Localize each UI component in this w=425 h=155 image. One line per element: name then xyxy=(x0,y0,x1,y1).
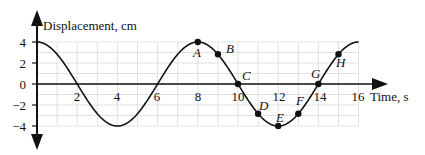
x-tick-label: 12 xyxy=(273,89,286,104)
point-label-H: H xyxy=(335,55,346,70)
x-tick-label: 16 xyxy=(352,89,366,104)
y-axis-title: Displacement, cm xyxy=(43,18,137,33)
x-tick-label: 6 xyxy=(154,89,161,104)
point-marker-F xyxy=(295,111,301,117)
y-axis xyxy=(31,10,43,150)
x-tick-label: 8 xyxy=(195,89,202,104)
x-tick-label: 4 xyxy=(114,89,121,104)
point-label-C: C xyxy=(242,68,251,83)
point-label-D: D xyxy=(258,98,269,113)
x-axis xyxy=(37,78,388,90)
x-axis-title: Time, s xyxy=(370,89,409,104)
point-label-F: F xyxy=(295,93,305,108)
displacement-time-chart: 4 2 0 −2 −4 2 4 6 8 10 12 14 16 Displace… xyxy=(0,0,425,155)
y-tick-label: 2 xyxy=(20,56,27,71)
point-label-E: E xyxy=(275,110,284,125)
x-tick-label: 14 xyxy=(314,89,328,104)
point-marker-B xyxy=(215,51,221,57)
y-tick-label: 0 xyxy=(20,77,27,92)
point-label-B: B xyxy=(226,41,234,56)
y-tick-label: −4 xyxy=(12,119,26,134)
point-label-A: A xyxy=(192,45,201,60)
point-label-G: G xyxy=(311,66,321,81)
x-tick-label: 2 xyxy=(74,89,81,104)
y-axis-up-arrow-icon xyxy=(31,10,43,26)
point-marker-C xyxy=(235,81,241,87)
point-marker-G xyxy=(315,81,321,87)
y-tick-label: 4 xyxy=(20,35,27,50)
y-tick-label: −2 xyxy=(12,98,26,113)
y-axis-down-arrow-icon xyxy=(31,134,43,150)
